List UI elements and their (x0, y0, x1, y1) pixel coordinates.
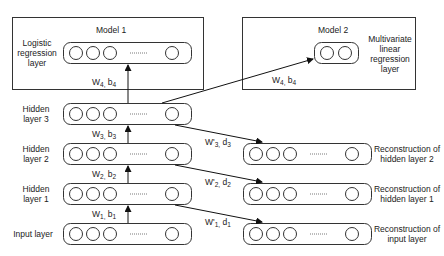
neurons-h2 (70, 148, 179, 161)
linear-layer-label: Multivariate linear regression layer (366, 34, 414, 74)
neurons-logistic (70, 47, 179, 60)
weight-label-w2-prime: W'2, d2 (205, 177, 231, 190)
weight-label-w2: W2, b2 (92, 169, 116, 182)
recon-hidden-1-label: Reconstruction of hidden layer 1 (372, 184, 442, 204)
neurons-r1 (250, 188, 359, 201)
hidden-layer-1-label: Hidden layer 1 (14, 184, 58, 204)
hidden-layer-2-label: Hidden layer 2 (14, 144, 58, 164)
recon-input-label: Reconstruction of input layer (372, 224, 442, 244)
weight-label-w1: W1, b1 (92, 209, 116, 222)
weight-label-w4-model2: W4, b4 (272, 75, 296, 88)
neurons-h1 (70, 188, 179, 201)
neurons-r2 (250, 148, 359, 161)
neurons-linear (321, 47, 352, 60)
weight-label-w4-model1: W4, b4 (92, 77, 116, 90)
model2-title: Model 2 (308, 25, 358, 35)
weight-label-w3: W3, b3 (92, 129, 116, 142)
neurons-input (70, 228, 179, 241)
neurons-h3 (70, 108, 179, 121)
model1-title: Model 1 (86, 25, 136, 35)
logistic-layer-label: Logistic regression layer (14, 38, 60, 68)
weight-label-w3-prime: W'3, d3 (205, 137, 231, 150)
input-layer-label: Input layer (4, 229, 62, 239)
neurons-rin (250, 228, 359, 241)
hidden-layer-3-label: Hidden layer 3 (14, 104, 58, 124)
recon-hidden-2-label: Reconstruction of hidden layer 2 (372, 144, 442, 164)
weight-label-w1-prime: W'1, d1 (205, 217, 231, 230)
